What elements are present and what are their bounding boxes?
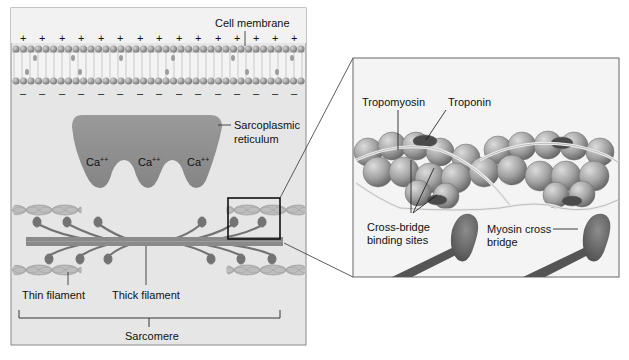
- svg-text:+: +: [39, 32, 45, 44]
- binding-sites-label-2: binding sites: [367, 234, 429, 246]
- svg-text:–: –: [176, 87, 183, 99]
- inside-charges: – – – – – – – – – – – – – – –: [20, 87, 298, 99]
- diagram-canvas: + + + + + + + + + + + + + + + – – – – – …: [0, 0, 629, 360]
- svg-text:–: –: [39, 87, 46, 99]
- svg-text:–: –: [156, 87, 163, 99]
- svg-text:–: –: [215, 87, 222, 99]
- svg-text:–: –: [59, 87, 66, 99]
- svg-text:–: –: [137, 87, 144, 99]
- cell-membrane: [12, 45, 305, 84]
- svg-text:–: –: [98, 87, 105, 99]
- zoom-panel: Tropomyosin Troponin Cross-bridge bindin…: [353, 58, 619, 277]
- svg-text:+: +: [291, 32, 297, 44]
- thin-filament-label: Thin filament: [22, 289, 85, 301]
- svg-text:+: +: [98, 32, 104, 44]
- svg-text:+: +: [59, 32, 65, 44]
- svg-text:+: +: [253, 32, 259, 44]
- svg-text:–: –: [291, 87, 298, 99]
- svg-text:+: +: [137, 32, 143, 44]
- sarcoplasmic-reticulum-label-2: reticulum: [234, 133, 279, 145]
- binding-sites-label-1: Cross-bridge: [367, 221, 430, 233]
- svg-text:–: –: [234, 87, 241, 99]
- myosin-cross-bridge-label-1: Myosin cross: [487, 223, 552, 235]
- thick-filament-label: Thick filament: [112, 289, 180, 301]
- svg-text:–: –: [78, 87, 85, 99]
- muscle-fiber-panel: + + + + + + + + + + + + + + + – – – – – …: [11, 8, 306, 345]
- svg-text:–: –: [20, 87, 27, 99]
- svg-text:–: –: [195, 87, 202, 99]
- sarcoplasmic-reticulum: [72, 115, 222, 188]
- svg-text:–: –: [272, 87, 279, 99]
- troponin-label: Troponin: [448, 96, 491, 108]
- svg-text:+: +: [272, 32, 278, 44]
- svg-text:+: +: [117, 32, 123, 44]
- outside-charges: + + + + + + + + + + + + + + +: [20, 32, 297, 44]
- svg-text:+: +: [20, 32, 26, 44]
- sarcomere-label: Sarcomere: [125, 330, 179, 342]
- sarcoplasmic-reticulum-label-1: Sarcoplasmic: [234, 119, 301, 131]
- svg-text:+: +: [215, 32, 221, 44]
- myosin-cross-bridge-label-2: bridge: [487, 236, 518, 248]
- svg-text:–: –: [253, 87, 260, 99]
- cell-membrane-label: Cell membrane: [215, 17, 290, 29]
- svg-text:+: +: [234, 32, 240, 44]
- tropomyosin-label: Tropomyosin: [362, 96, 425, 108]
- svg-text:+: +: [195, 32, 201, 44]
- svg-text:+: +: [156, 32, 162, 44]
- svg-text:+: +: [176, 32, 182, 44]
- svg-text:–: –: [117, 87, 124, 99]
- svg-text:+: +: [78, 32, 84, 44]
